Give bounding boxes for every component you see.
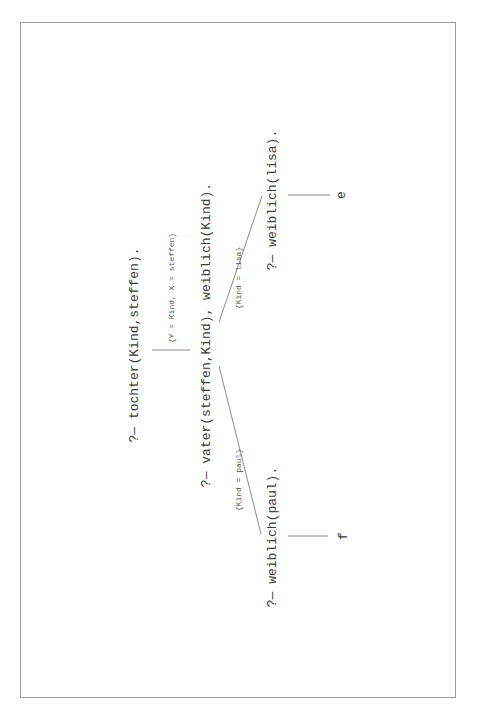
paul-result: f bbox=[336, 532, 351, 540]
lisa-result: e bbox=[334, 191, 349, 199]
root-goal: ?— tochter(Kind,steffen). bbox=[127, 247, 142, 442]
substitution-lisa: {Kind = lisa} bbox=[234, 247, 243, 309]
paul-goal: ?— weiblich(paul). bbox=[265, 467, 280, 607]
substitution-step1: {Y = Kind, X = steffen} bbox=[167, 233, 176, 343]
lisa-goal: ?— weiblich(lisa). bbox=[265, 130, 280, 270]
substitution-paul: {Kind = paul} bbox=[234, 449, 243, 511]
resolution-tree: ?— tochter(Kind,steffen). {Y = Kind, X =… bbox=[0, 0, 477, 716]
step1-goal: ?— vater(steffen,Kind), weiblich(Kind). bbox=[199, 183, 214, 487]
